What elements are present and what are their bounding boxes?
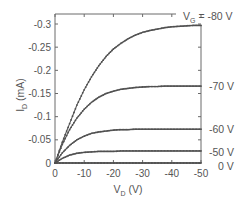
series-0-v	[54, 162, 202, 164]
x-tick-label: -40	[165, 168, 180, 179]
y-axis-label: ID (mA)	[14, 78, 28, 112]
y-tick-label: -0.3	[34, 19, 52, 30]
series-label-vg-50: -50 V	[209, 146, 234, 158]
series--50-v	[54, 150, 202, 164]
y-tick-label: 0	[45, 158, 51, 169]
series-v-g-80-v	[54, 24, 202, 163]
series-label-vg-80: VG = -80 V	[183, 10, 233, 24]
y-axis-ticks: 0-0.05-0.1-0.15-0.2-0.25-0.3	[28, 19, 201, 169]
x-tick-label: 0	[52, 168, 58, 179]
y-tick-label: -0.1	[34, 111, 52, 122]
x-axis-label: VD (V)	[114, 183, 143, 197]
series-label-vg-0: 0 V	[218, 160, 234, 172]
data-series	[54, 24, 202, 163]
series--60-v	[54, 128, 202, 164]
x-tick-label: -50	[194, 168, 209, 179]
y-tick-label: -0.15	[28, 88, 51, 99]
output-characteristics-chart: 0-0.05-0.1-0.15-0.2-0.25-0.3 0-10-20-30-…	[0, 0, 243, 208]
x-tick-label: -30	[135, 168, 150, 179]
x-tick-label: -20	[106, 168, 121, 179]
series-label-vg-60: -60 V	[209, 123, 234, 135]
y-tick-label: -0.25	[28, 42, 51, 53]
series-label-vg-70: -70 V	[209, 80, 234, 92]
series--70-v	[54, 85, 202, 164]
y-tick-label: -0.2	[34, 65, 52, 76]
y-tick-label: -0.05	[28, 134, 51, 145]
x-tick-label: -10	[77, 168, 92, 179]
